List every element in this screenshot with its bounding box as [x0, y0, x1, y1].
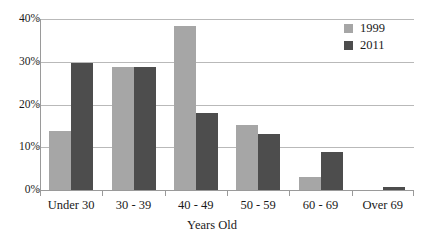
- bar-chart: 0%10%20%30%40% Under 3030 - 3940 - 4950 …: [0, 0, 424, 246]
- x-axis-tick-mark: [413, 190, 414, 196]
- gridline: [40, 147, 414, 148]
- legend-swatch-1999: [344, 24, 353, 33]
- bar: [258, 134, 280, 190]
- x-axis-tick-mark: [165, 190, 166, 196]
- bar: [299, 177, 321, 190]
- y-axis-tick-label: 10%: [4, 141, 40, 153]
- gridline: [40, 62, 414, 63]
- bar: [321, 152, 343, 190]
- bar: [112, 67, 134, 190]
- x-axis-category-labels: Under 3030 - 3940 - 4950 - 5960 - 69Over…: [40, 198, 414, 216]
- x-axis-tick-mark: [40, 190, 41, 196]
- y-axis-tick-label: 20%: [4, 99, 40, 111]
- bar: [71, 63, 93, 190]
- x-axis-category-label: 60 - 69: [289, 198, 351, 212]
- x-axis-category-label: Over 69: [352, 198, 414, 212]
- y-axis-tick-label: 40%: [4, 13, 40, 25]
- bar: [49, 131, 71, 190]
- legend-item-1999: 1999: [344, 20, 414, 37]
- x-axis-category-label: 40 - 49: [165, 198, 227, 212]
- x-axis-tick-mark: [289, 190, 290, 196]
- x-axis-title: Years Old: [0, 218, 424, 232]
- y-axis-line: [40, 19, 41, 191]
- legend-swatch-2011: [344, 41, 353, 50]
- chart-legend: 1999 2011: [344, 20, 414, 54]
- x-axis-tick-mark: [352, 190, 353, 196]
- y-axis-tick-label: 0%: [4, 184, 40, 196]
- legend-item-2011: 2011: [344, 37, 414, 54]
- x-axis-category-label: 30 - 39: [102, 198, 164, 212]
- bar: [236, 125, 258, 190]
- bar: [196, 113, 218, 190]
- legend-label-1999: 1999: [360, 22, 385, 35]
- x-axis-category-label: 50 - 59: [227, 198, 289, 212]
- bar: [134, 67, 156, 190]
- x-axis-ticks: [40, 190, 414, 196]
- x-axis-tick-mark: [227, 190, 228, 196]
- x-axis-category-label: Under 30: [40, 198, 102, 212]
- y-axis-tick-label: 30%: [4, 56, 40, 68]
- bar: [174, 26, 196, 190]
- y-axis-labels: 0%10%20%30%40%: [0, 0, 40, 246]
- x-axis-tick-mark: [102, 190, 103, 196]
- legend-label-2011: 2011: [360, 39, 385, 52]
- gridline: [40, 105, 414, 106]
